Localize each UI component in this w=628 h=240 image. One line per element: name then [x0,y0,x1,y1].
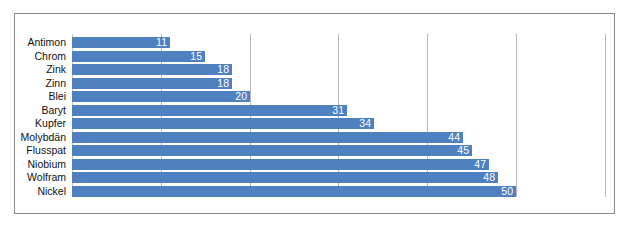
data-label: 18 [217,64,229,75]
bar-row: Molybdän44 [0,132,604,143]
category-label: Antimon [0,37,66,48]
bar-row: Chrom15 [0,51,604,62]
gridline [605,34,606,197]
bar: 31 [72,105,347,116]
category-label: Kupfer [0,118,66,129]
bar: 11 [72,37,170,48]
data-label: 50 [501,186,513,197]
data-label: 34 [359,118,371,129]
category-label: Blei [0,91,66,102]
bar-row: Niobium47 [0,159,604,170]
category-label: Nickel [0,186,66,197]
bar-row: Nickel50 [0,186,604,197]
bar-row: Flusspat45 [0,145,604,156]
bar-row: Kupfer34 [0,118,604,129]
category-label: Niobium [0,159,66,170]
data-label: 18 [217,78,229,89]
category-label: Zinn [0,78,66,89]
category-label: Flusspat [0,145,66,156]
data-label: 20 [235,91,247,102]
category-label: Chrom [0,51,66,62]
bar: 48 [72,172,498,183]
category-label: Baryt [0,105,66,116]
category-label: Zink [0,64,66,75]
bar: 44 [72,132,463,143]
data-label: 47 [474,159,486,170]
plot-area: Antimon11Chrom15Zink18Zinn18Blei20Baryt3… [72,34,604,197]
bar-row: Wolfram48 [0,172,604,183]
bar: 15 [72,51,205,62]
bar-row: Zinn18 [0,78,604,89]
bar: 34 [72,118,374,129]
data-label: 45 [457,145,469,156]
bar: 50 [72,186,516,197]
bar: 45 [72,145,472,156]
bar-row: Baryt31 [0,105,604,116]
bar: 20 [72,91,250,102]
data-label: 11 [156,37,167,48]
bar-row: Antimon11 [0,37,604,48]
bar: 18 [72,64,232,75]
bar: 18 [72,78,232,89]
data-label: 48 [483,172,495,183]
data-label: 44 [448,132,460,143]
bar-row: Zink18 [0,64,604,75]
bar: 47 [72,159,489,170]
data-label: 15 [190,51,202,62]
data-label: 31 [332,105,344,116]
bar-row: Blei20 [0,91,604,102]
category-label: Wolfram [0,172,66,183]
category-label: Molybdän [0,132,66,143]
